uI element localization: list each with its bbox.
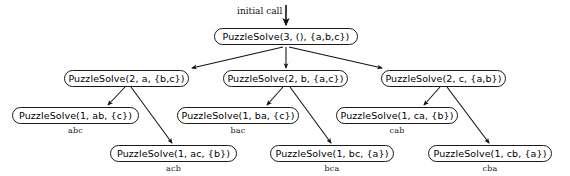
node-leaf-ca[interactable]: PuzzleSolve(1, ca, {b}) — [336, 107, 458, 124]
result-label-bca: bca — [270, 164, 394, 173]
node-level2-a[interactable]: PuzzleSolve(2, a, {b,c}) — [64, 70, 189, 87]
node-level2-c[interactable]: PuzzleSolve(2, c, {a,b}) — [381, 70, 506, 87]
result-label-bac: bac — [177, 126, 299, 135]
edge-c-to-ca — [424, 87, 440, 105]
result-label-cab: cab — [336, 126, 458, 135]
node-leaf-cb[interactable]: PuzzleSolve(1, cb, {a}) — [428, 145, 552, 162]
edge-a-to-ab — [108, 87, 125, 105]
node-leaf-ab[interactable]: PuzzleSolve(1, ab, {c}) — [12, 107, 139, 124]
recursion-tree-diagram: initial call PuzzleSolve(3, (), {a,b,c})… — [0, 0, 570, 176]
result-label-abc: abc — [12, 126, 139, 135]
result-label-acb: acb — [110, 164, 237, 173]
node-root[interactable]: PuzzleSolve(3, (), {a,b,c}) — [214, 28, 358, 45]
node-leaf-ac[interactable]: PuzzleSolve(1, ac, {b}) — [110, 145, 237, 162]
node-level2-b[interactable]: PuzzleSolve(2, b, {a,c}) — [223, 70, 348, 87]
edge-root-to-a — [192, 47, 283, 68]
edge-root-to-c — [289, 47, 382, 68]
initial-call-label: initial call — [237, 6, 282, 16]
edge-b-to-ba — [267, 87, 283, 105]
node-leaf-bc[interactable]: PuzzleSolve(1, bc, {a}) — [270, 145, 394, 162]
node-leaf-ba[interactable]: PuzzleSolve(1, ba, {c}) — [177, 107, 299, 124]
result-label-cba: cba — [428, 164, 552, 173]
